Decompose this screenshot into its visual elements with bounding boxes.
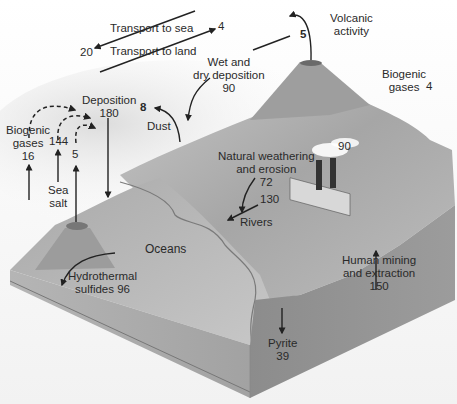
value-dust: 8: [140, 101, 146, 114]
value-sea-volcano: 5: [72, 148, 78, 161]
label-biogenic-gases-sea: Biogenic gases 16: [6, 124, 50, 163]
label-rivers: Rivers: [240, 216, 273, 229]
sulfur-cycle-diagram: Transport to sea 4 Transport to land 20 …: [0, 0, 457, 404]
label-transport-to-sea: Transport to sea: [110, 22, 193, 35]
label-natural-weathering: Natural weathering and erosion 72: [218, 150, 315, 189]
label-transport-to-land: Transport to land: [110, 45, 197, 58]
label-sea-salt: Sea salt: [48, 184, 68, 210]
label-pyrite: Pyrite 39: [268, 337, 297, 363]
label-hydrothermal-sulfides: Hydrothermal sulfides 96: [68, 270, 137, 296]
value-rivers: 130: [260, 193, 279, 206]
label-oceans: Oceans: [145, 243, 186, 256]
value-transport-to-sea: 4: [218, 20, 224, 33]
value-biogenic-gases-land: 4: [426, 80, 432, 93]
label-deposition: Deposition 180: [82, 94, 136, 120]
label-dust: Dust: [147, 120, 171, 133]
label-biogenic-gases-land: Biogenic gases: [382, 68, 426, 94]
value-sea-salt: 144: [49, 135, 68, 148]
value-industry-emissions: 90: [338, 140, 351, 153]
label-human-mining: Human mining and extraction 150: [342, 254, 416, 293]
label-volcanic-activity: Volcanic activity: [330, 12, 373, 38]
value-volcanic-activity: 5: [300, 28, 306, 41]
label-wet-dry-deposition: Wet and dry deposition 90: [193, 56, 265, 95]
value-transport-to-land: 20: [80, 46, 93, 59]
